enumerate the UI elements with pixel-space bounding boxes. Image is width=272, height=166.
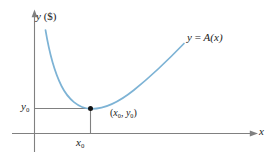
graph-canvas (0, 0, 272, 166)
curve-label-argument: (x) (210, 31, 222, 43)
y0-subscript: 0 (26, 106, 29, 113)
y-axis-label: y ($) (36, 11, 56, 22)
x-axis-arrow-icon (250, 130, 258, 136)
curve-left-branch (46, 30, 91, 109)
minimum-point-marker (88, 106, 93, 111)
x0-subscript: 0 (81, 142, 84, 149)
point-y-subscript: 0 (130, 112, 133, 119)
y-axis-unit: ($) (44, 10, 57, 22)
minimum-point-label: (x0, y0) (110, 108, 137, 118)
curve-right-branch (91, 44, 185, 109)
x-axis-label: x (259, 126, 264, 137)
curve-label: y = A(x) (187, 32, 223, 43)
point-x-subscript: 0 (118, 112, 121, 119)
y0-tick-label: y0 (21, 101, 29, 112)
x0-tick-label: x0 (76, 137, 84, 148)
math-graph-figure: y ($) x y = A(x) (x0, y0) y0 x0 (0, 0, 272, 166)
